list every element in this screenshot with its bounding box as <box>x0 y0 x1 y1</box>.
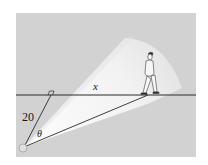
label-theta: θ <box>37 128 42 139</box>
label-x: x <box>92 80 98 92</box>
diagram-canvas: x 20 θ <box>0 0 208 165</box>
label-distance-20: 20 <box>22 110 34 124</box>
light-source-icon <box>19 144 27 152</box>
